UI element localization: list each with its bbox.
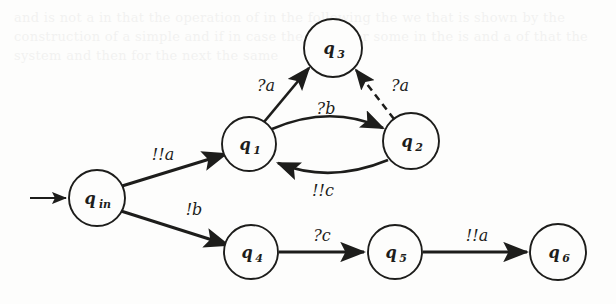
edge-q2-q3 — [356, 70, 394, 119]
state-label-q2: q — [401, 132, 412, 151]
edge-q2-q1 — [278, 160, 388, 173]
state-sublabel-q4: 4 — [255, 252, 263, 265]
state-sublabel-q2: 2 — [414, 141, 423, 154]
edge-label-q1-q2: ?b — [317, 99, 336, 118]
state-sublabel-qin: in — [99, 198, 111, 211]
edge-label-q2-q1: !!c — [312, 181, 334, 200]
state-circle-qin — [69, 170, 125, 226]
state-node-q4[interactable]: q 4 — [224, 225, 278, 279]
state-sublabel-q1: 1 — [253, 144, 261, 157]
state-node-q5[interactable]: q 5 — [368, 225, 422, 279]
state-label-q1: q — [239, 135, 250, 154]
state-node-q6[interactable]: q 6 — [530, 224, 586, 280]
state-node-qin[interactable]: q in — [69, 170, 125, 226]
edge-label-qin-q4: !b — [186, 200, 203, 219]
state-label-q5: q — [385, 243, 396, 262]
state-sublabel-q3: 3 — [337, 48, 345, 61]
edge-label-q1-q3: ?a — [257, 76, 275, 95]
state-label-q6: q — [548, 243, 559, 262]
state-label-q3: q — [323, 39, 334, 58]
edge-label-q4-q5: ?c — [313, 226, 331, 245]
edge-qin-q4 — [121, 211, 228, 245]
state-node-q1[interactable]: q 1 — [222, 117, 276, 171]
automaton-diagram: q in q 1 q 2 q 3 — [0, 0, 616, 304]
state-label-q4: q — [241, 243, 252, 262]
state-label-qin: q — [84, 189, 95, 208]
state-sublabel-q6: 6 — [562, 252, 570, 265]
edge-q1-q2 — [272, 116, 383, 129]
edge-label-q5-q6: !!a — [466, 226, 488, 245]
figure-page: and is not a in that the operation of in… — [0, 0, 616, 304]
state-node-q3[interactable]: q 3 — [304, 19, 362, 77]
state-sublabel-q5: 5 — [399, 252, 407, 265]
edge-label-qin-q1: !!a — [152, 145, 174, 164]
state-node-q2[interactable]: q 2 — [383, 113, 439, 169]
edge-label-q2-q3: ?a — [391, 76, 409, 95]
